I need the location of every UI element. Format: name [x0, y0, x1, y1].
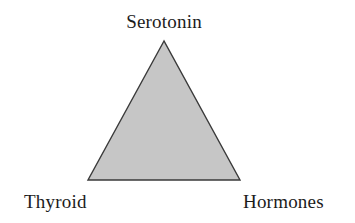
triangle-figure: Serotonin Thyroid Hormones [0, 0, 355, 223]
triangle-shape [0, 0, 355, 223]
vertex-label-hormones: Hormones [243, 192, 324, 211]
vertex-label-serotonin: Serotonin [0, 12, 328, 31]
vertex-label-thyroid: Thyroid [24, 192, 87, 211]
triangle-polygon [88, 41, 240, 180]
